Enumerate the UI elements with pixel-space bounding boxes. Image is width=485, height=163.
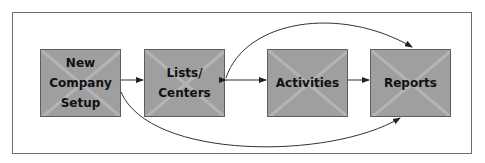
edge-setup-to-reports-curve: [121, 92, 400, 147]
edge-lists-to-reports-curve: [226, 23, 412, 78]
connector-arrows: [0, 0, 485, 163]
